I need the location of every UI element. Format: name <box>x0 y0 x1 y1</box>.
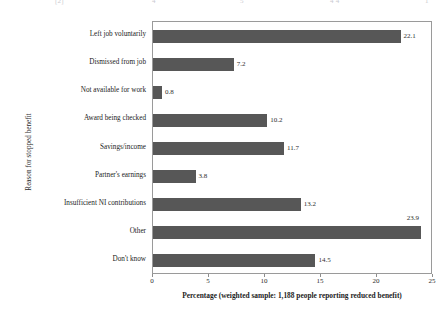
bar-rows: 22.17.20.810.211.73.813.223.914.5 <box>153 22 431 273</box>
bar-value-label: 0.8 <box>165 89 174 96</box>
bar-value-label: 23.9 <box>407 215 419 222</box>
y-axis-category-label: Dismissed from job <box>0 59 146 66</box>
bar <box>153 198 301 211</box>
bar-row: 10.2 <box>153 112 431 128</box>
y-axis-category-label: Insufficient NI contributions <box>0 200 146 207</box>
bar <box>153 226 421 239</box>
bar-row: 3.8 <box>153 169 431 185</box>
bar-row: 0.8 <box>153 84 431 100</box>
bar-value-label: 14.5 <box>318 257 330 264</box>
bar-value-label: 10.2 <box>270 117 282 124</box>
y-axis-category-labels: Left job voluntarilyDismissed from jobNo… <box>0 21 150 274</box>
x-axis-tick-label: 25 <box>429 278 436 285</box>
x-axis-tick-label: 0 <box>150 278 154 285</box>
y-axis-category-label: Partner's earnings <box>0 172 146 179</box>
y-axis-category-label: Left job voluntarily <box>0 31 146 38</box>
x-axis-tick-label: 20 <box>373 278 380 285</box>
y-axis-category-label: Savings/income <box>0 144 146 151</box>
y-axis-category-label: Other <box>0 228 146 235</box>
y-axis-category-label: Not available for work <box>0 87 146 94</box>
bar <box>153 114 267 127</box>
bar-row: 13.2 <box>153 197 431 213</box>
x-axis-tick-label: 15 <box>317 278 324 285</box>
bar-row: 23.9 <box>153 225 431 241</box>
bar-value-label: 7.2 <box>237 61 246 68</box>
plot-area: 22.17.20.810.211.73.813.223.914.5 <box>152 21 432 274</box>
bar-value-label: 3.8 <box>199 173 208 180</box>
bar-value-label: 22.1 <box>404 33 416 40</box>
bar-value-label: 11.7 <box>287 145 299 152</box>
bar-row: 11.7 <box>153 141 431 157</box>
bar-value-label: 13.2 <box>304 201 316 208</box>
y-axis-category-label: Award being checked <box>0 115 146 122</box>
bar <box>153 170 196 183</box>
bar-row: 22.1 <box>153 28 431 44</box>
bar-row: 7.2 <box>153 56 431 72</box>
bar <box>153 142 284 155</box>
x-axis-tick-label: 5 <box>206 278 210 285</box>
bar-row: 14.5 <box>153 253 431 269</box>
x-axis-ticks: 0510152025 <box>152 274 432 288</box>
bar <box>153 254 315 267</box>
bar-chart: Reason for stopped benefit Left job volu… <box>0 0 448 311</box>
x-axis-tick-label: 10 <box>261 278 268 285</box>
bar <box>153 86 162 99</box>
y-axis-category-label: Don't know <box>0 256 146 263</box>
x-axis-title: Percentage (weighted sample: 1,188 peopl… <box>152 291 432 300</box>
bar <box>153 58 234 71</box>
bar <box>153 30 401 43</box>
